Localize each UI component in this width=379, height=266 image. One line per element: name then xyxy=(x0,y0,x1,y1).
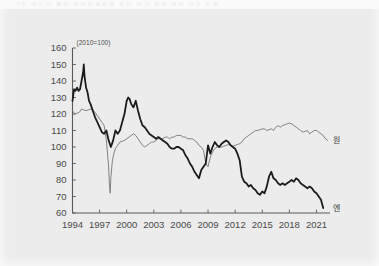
figure-canvas: 그림 아시아 통화 실질실효환율 추이 비교 원화 엔화 장기 흐름 60708… xyxy=(0,0,379,266)
y-tick-label: 100 xyxy=(51,141,67,152)
x-tick-label: 2018 xyxy=(279,219,300,230)
x-tick-label: 1994 xyxy=(62,219,83,230)
y-tick-label: 70 xyxy=(56,191,67,202)
y-tick-label: 60 xyxy=(56,207,67,218)
series-end-labels: 원엔 xyxy=(333,136,340,213)
y-tick-label: 130 xyxy=(51,92,67,103)
series-label-엔: 엔 xyxy=(333,203,340,213)
axis-tick-marks xyxy=(73,48,317,213)
chart-plot-area: 60708090100110120130140150160 1994199720… xyxy=(0,0,379,266)
y-tick-label: 90 xyxy=(56,158,67,169)
y-tick-label: 120 xyxy=(51,108,67,119)
x-tick-label: 2009 xyxy=(197,219,218,230)
y-tick-label: 150 xyxy=(51,59,67,70)
y-tick-label: 140 xyxy=(51,75,67,86)
x-tick-label: 1997 xyxy=(89,219,110,230)
x-axis-tick-labels: 1994199720002003200620092012201520182021 xyxy=(62,219,327,230)
x-tick-label: 2000 xyxy=(116,219,137,230)
series-label-원: 원 xyxy=(333,136,340,145)
axis-spines xyxy=(73,48,331,213)
x-tick-label: 2012 xyxy=(225,219,246,230)
unit-note-label: (2010=100) xyxy=(77,39,111,47)
x-tick-label: 2006 xyxy=(170,219,191,230)
x-tick-label: 2003 xyxy=(143,219,164,230)
y-axis-tick-labels: 60708090100110120130140150160 xyxy=(51,42,67,218)
y-tick-label: 110 xyxy=(51,125,66,136)
x-tick-label: 2015 xyxy=(252,219,273,230)
data-series-lines xyxy=(73,65,328,209)
y-tick-label: 80 xyxy=(56,174,67,185)
line-chart-svg: 60708090100110120130140150160 1994199720… xyxy=(0,0,379,266)
y-tick-label: 160 xyxy=(51,42,67,53)
x-tick-label: 2021 xyxy=(306,219,327,230)
